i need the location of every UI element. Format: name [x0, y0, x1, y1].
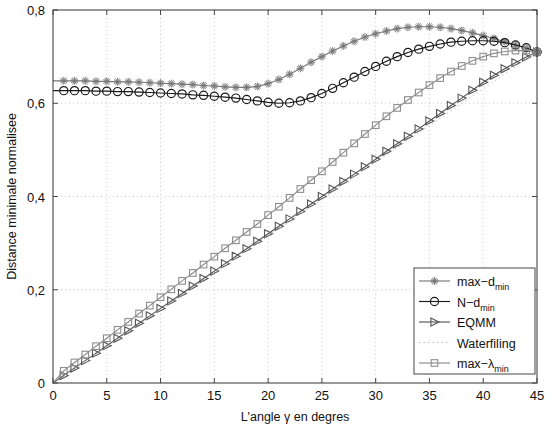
data-marker	[178, 80, 186, 88]
y-axis-label: Distance minimale normalisee	[5, 113, 19, 280]
data-marker	[372, 30, 380, 38]
data-marker	[468, 29, 476, 37]
y-tick-label: 0,8	[27, 3, 45, 18]
x-axis-label: L'angle γ en degres	[241, 410, 350, 424]
legend-label-subscript: min	[480, 303, 495, 313]
data-marker	[415, 23, 423, 31]
data-marker	[135, 78, 143, 86]
data-marker	[350, 37, 358, 45]
data-marker	[329, 47, 337, 55]
data-marker	[404, 23, 412, 31]
x-tick-label: 40	[476, 388, 490, 403]
y-tick-label: 0	[38, 376, 45, 391]
x-tick-label: 30	[368, 388, 382, 403]
data-marker	[146, 79, 154, 87]
data-marker	[232, 83, 240, 91]
data-marker	[60, 77, 68, 85]
x-tick-label: 20	[261, 388, 275, 403]
series-line	[53, 27, 537, 88]
series-n-d-min	[53, 37, 541, 108]
data-marker	[114, 78, 122, 86]
data-marker	[71, 77, 79, 85]
data-marker	[286, 70, 294, 78]
x-tick-label: 10	[153, 388, 167, 403]
y-tick-label: 0,4	[27, 190, 45, 205]
data-marker	[167, 80, 175, 88]
data-marker	[436, 23, 444, 31]
legend-label: EQMM	[457, 316, 496, 330]
data-marker	[103, 77, 111, 85]
data-marker	[221, 83, 229, 91]
data-marker	[124, 78, 132, 86]
data-marker	[339, 42, 347, 50]
data-marker	[189, 81, 197, 89]
data-marker	[157, 79, 165, 87]
data-marker	[425, 23, 433, 31]
chart-figure: 05101520253035404500,20,40,60,8L'angle γ…	[0, 0, 554, 426]
series-max-d-min	[53, 23, 541, 92]
x-tick-label: 0	[49, 388, 56, 403]
x-tick-label: 45	[530, 388, 544, 403]
x-tick-label: 5	[103, 388, 110, 403]
data-marker	[200, 82, 208, 90]
data-marker	[393, 25, 401, 33]
data-marker	[253, 82, 261, 90]
legend-label-subscript: min	[494, 364, 509, 374]
data-marker	[243, 83, 251, 91]
legend-label: Waterfiling	[457, 337, 516, 351]
data-marker	[318, 53, 326, 61]
data-marker	[275, 75, 283, 83]
y-tick-label: 0,6	[27, 96, 45, 111]
data-marker	[210, 82, 218, 90]
minimum-distance-line-chart: 05101520253035404500,20,40,60,8L'angle γ…	[0, 0, 554, 426]
data-marker	[458, 27, 466, 35]
x-tick-label: 25	[315, 388, 329, 403]
legend-label-subscript: min	[495, 282, 510, 292]
data-marker	[264, 80, 272, 88]
x-tick-label: 15	[207, 388, 221, 403]
data-marker	[361, 33, 369, 41]
data-marker	[307, 58, 315, 66]
data-marker	[382, 27, 390, 35]
x-tick-label: 35	[422, 388, 436, 403]
data-marker	[447, 25, 455, 33]
legend: max−dminN−dminEQMMWaterfilingmax−λmin	[414, 268, 535, 374]
y-tick-label: 0,2	[27, 283, 45, 298]
data-marker	[81, 77, 89, 85]
data-marker	[92, 77, 100, 85]
data-marker	[296, 64, 304, 72]
